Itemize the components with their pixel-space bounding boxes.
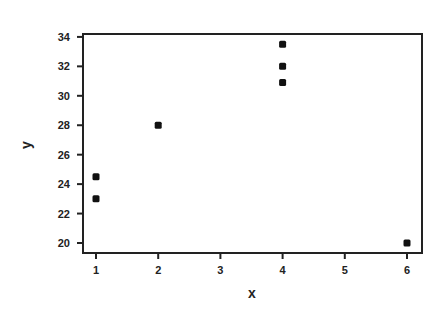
- data-point: [93, 195, 100, 202]
- y-tick-label: 22: [58, 208, 70, 220]
- y-axis-ticks: 2022242628303234: [58, 31, 83, 249]
- data-point: [404, 240, 411, 247]
- data-point: [279, 41, 286, 48]
- data-point: [279, 63, 286, 70]
- y-tick-label: 30: [58, 90, 70, 102]
- x-tick-label: 5: [342, 264, 348, 276]
- x-tick-label: 6: [404, 264, 410, 276]
- x-tick-label: 2: [155, 264, 161, 276]
- data-point: [93, 173, 100, 180]
- y-tick-label: 32: [58, 60, 70, 72]
- data-point: [155, 122, 162, 129]
- y-tick-label: 20: [58, 237, 70, 249]
- y-tick-label: 24: [58, 178, 71, 190]
- y-tick-label: 28: [58, 119, 70, 131]
- plot-frame: [83, 34, 422, 253]
- y-tick-label: 26: [58, 149, 70, 161]
- y-tick-label: 34: [58, 31, 71, 43]
- scatter-chart: 2022242628303234 123456 x y: [0, 0, 440, 314]
- x-axis-ticks: 123456: [93, 253, 410, 276]
- x-tick-label: 1: [93, 264, 99, 276]
- x-tick-label: 4: [280, 264, 287, 276]
- y-axis-label: y: [18, 141, 34, 149]
- data-point: [279, 79, 286, 86]
- x-axis-label: x: [248, 285, 256, 301]
- x-tick-label: 3: [217, 264, 223, 276]
- data-points: [93, 41, 411, 247]
